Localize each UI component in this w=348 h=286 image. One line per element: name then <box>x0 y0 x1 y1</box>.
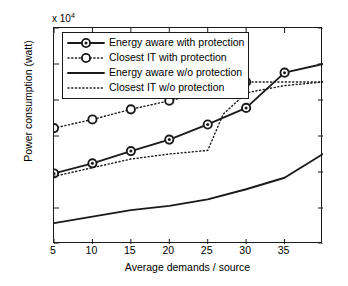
legend-item[interactable]: Energy aware with protection <box>66 35 244 50</box>
y-axis-multiplier: x 104 <box>52 11 75 24</box>
x-axis-tick-label: 15 <box>115 245 145 256</box>
y-axis-multiplier-exponent: 4 <box>71 12 75 19</box>
legend-marker-core <box>85 41 88 44</box>
figure: x 104 3.532.521.510.5 5101520253035 Aver… <box>0 0 348 286</box>
x-axis-title: Average demands / source <box>53 261 322 273</box>
series-marker-core-1 <box>91 162 94 165</box>
legend-line-sample <box>66 66 106 80</box>
series-marker-core-1 <box>245 106 248 109</box>
legend-item[interactable]: Closest IT w/o protection <box>66 80 244 95</box>
x-axis-tick-label: 25 <box>192 245 222 256</box>
legend-line-sample <box>66 81 106 95</box>
x-axis-tick-label: 5 <box>38 245 68 256</box>
legend-label: Energy aware with protection <box>106 37 244 48</box>
series-marker-core-1 <box>206 123 209 126</box>
legend-item[interactable]: Closest IT with protection <box>66 50 244 65</box>
x-axis-tick-label: 35 <box>269 245 299 256</box>
series-marker-core-1 <box>129 150 132 153</box>
series-marker-2 <box>88 115 96 123</box>
legend-label: Closest IT w/o protection <box>106 82 224 93</box>
series-marker-core-1 <box>283 71 286 74</box>
series-marker-core-1 <box>168 138 171 141</box>
series-marker-2 <box>54 124 58 132</box>
legend: Energy aware with protectionClosest IT w… <box>62 32 249 99</box>
y-axis-title: Power consumption (watt) <box>22 11 34 191</box>
legend-line-sample <box>66 51 106 65</box>
legend-label: Closest IT with protection <box>106 52 227 63</box>
series-marker-2 <box>127 105 135 113</box>
x-axis-tick-label: 10 <box>76 245 106 256</box>
x-axis-tick-label: 30 <box>230 245 260 256</box>
y-axis-multiplier-base: x 10 <box>52 13 71 24</box>
x-axis-tick-label: 20 <box>153 245 183 256</box>
legend-item[interactable]: Energy aware w/o protection <box>66 65 244 80</box>
legend-line-sample <box>66 36 106 50</box>
legend-marker <box>82 53 90 61</box>
legend-label: Energy aware w/o protection <box>106 67 242 78</box>
